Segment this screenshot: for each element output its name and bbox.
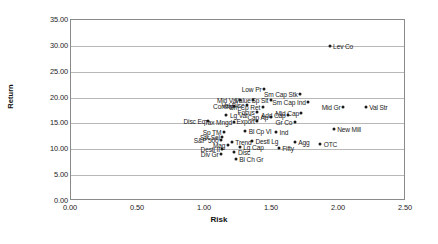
- x-axis: 0.000.501.001.502.002.50: [0, 0, 438, 244]
- x-axis-tick-label: 1.00: [197, 203, 211, 212]
- x-axis-tick-label: 0.00: [63, 203, 77, 212]
- x-axis-tick-label: 2.00: [331, 203, 345, 212]
- x-axis-tick-label: 2.50: [398, 203, 412, 212]
- x-axis-label: Risk: [0, 215, 438, 224]
- x-axis-tick-label: 1.50: [264, 203, 278, 212]
- x-axis-tick-label: 0.50: [130, 203, 144, 212]
- scatter-chart: Lev CoLow PrSm Cap StkMid ValValueSp Sit…: [0, 0, 438, 244]
